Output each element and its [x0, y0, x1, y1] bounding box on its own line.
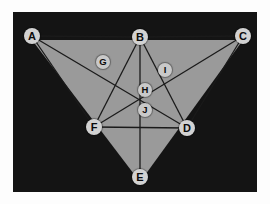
edge-b-c [140, 36, 243, 37]
diagram-canvas: ABCDEFGHIJ [0, 0, 270, 204]
node-a[interactable]: A [24, 28, 40, 44]
node-i[interactable]: I [158, 63, 172, 77]
node-g[interactable]: G [96, 55, 110, 69]
node-c[interactable]: C [235, 28, 251, 44]
edge-a-b [32, 36, 140, 37]
diagram-frame: ABCDEFGHIJ [13, 12, 257, 192]
node-b[interactable]: B [132, 29, 148, 45]
node-j[interactable]: J [138, 103, 152, 117]
node-e[interactable]: E [132, 169, 148, 185]
node-d[interactable]: D [179, 120, 195, 136]
node-f[interactable]: F [86, 119, 102, 135]
node-h[interactable]: H [138, 83, 152, 97]
